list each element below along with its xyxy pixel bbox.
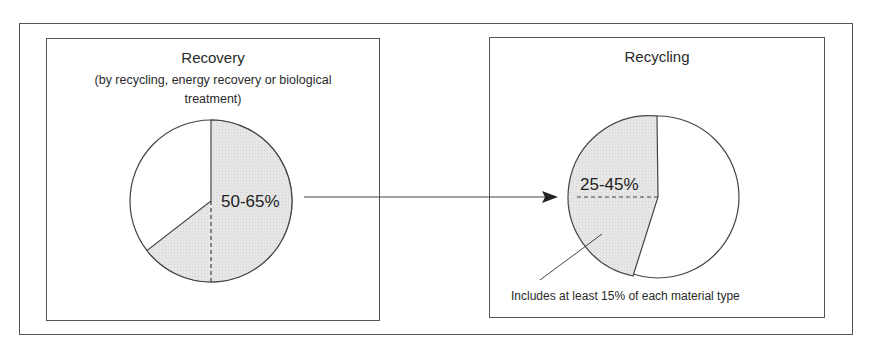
recycling-pie-label: 25-45% bbox=[580, 175, 639, 195]
recovery-to-recycling-arrow bbox=[304, 191, 558, 203]
recycling-pie bbox=[568, 116, 739, 278]
recovery-pie-label: 50-65% bbox=[221, 192, 280, 212]
recycling-annotation: Includes at least 15% of each material t… bbox=[511, 289, 740, 303]
annotation-leader-line bbox=[540, 234, 602, 280]
